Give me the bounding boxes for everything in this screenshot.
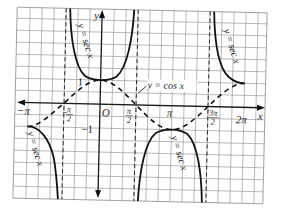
x-tick-neg-pi: −π (17, 104, 31, 116)
cos-curve-label: y = cos x (146, 79, 184, 91)
sec-cos-graph: y x O 1 −1 −π − π 2 π 2 π 3π 2 2π y = co… (0, 0, 281, 212)
y-tick-neg-1: −1 (81, 123, 93, 135)
y-tick-1: 1 (77, 76, 83, 88)
x-tick-two-pi: 2π (236, 113, 248, 125)
x-axis-label: x (257, 110, 263, 122)
y-axis-label: y (93, 9, 99, 21)
x-tick-pi: π (167, 107, 173, 119)
origin-label: O (102, 106, 110, 118)
